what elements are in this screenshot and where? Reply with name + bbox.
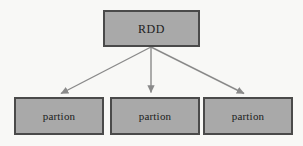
node-rdd-label: RDD — [138, 23, 165, 35]
edge-rdd-to-partition-2 — [151, 47, 244, 94]
node-rdd: RDD — [103, 10, 200, 47]
node-partition-0-label: partion — [43, 111, 76, 122]
node-partition-2-label: partion — [232, 111, 265, 122]
node-partition-1-label: partion — [139, 111, 172, 122]
diagram-canvas: RDD partion partion partion — [0, 0, 303, 146]
node-partition-1: partion — [110, 97, 200, 135]
edge-rdd-to-partition-0 — [61, 47, 151, 94]
node-partition-2: partion — [203, 97, 293, 135]
node-partition-0: partion — [14, 97, 104, 135]
